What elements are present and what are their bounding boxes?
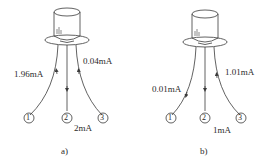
- current-pin1-a: 1.96mA: [14, 69, 43, 79]
- current-pin2-b: 1mA: [213, 125, 231, 135]
- pin-1-label-b: 1: [168, 113, 172, 123]
- lead-1-b: [172, 47, 196, 115]
- pin-2-label-b: 2: [202, 113, 206, 123]
- lead-1-a: [30, 45, 58, 115]
- transistor-diagram: [0, 0, 269, 168]
- pin-3-label-b: 3: [238, 113, 242, 123]
- caption-a: a): [61, 146, 68, 156]
- pin-2-label-a: 2: [64, 113, 68, 123]
- current-pin2-a: 2mA: [74, 123, 92, 133]
- pin-3-label-a: 3: [100, 113, 104, 123]
- current-pin1-b: 0.01mA: [152, 84, 181, 94]
- pin-1-label-a: 1: [26, 113, 30, 123]
- current-pin3-a: 0.04mA: [83, 56, 112, 66]
- lead-3-b: [214, 47, 240, 115]
- current-pin3-b: 1.01mA: [225, 67, 254, 77]
- caption-b: b): [200, 146, 208, 156]
